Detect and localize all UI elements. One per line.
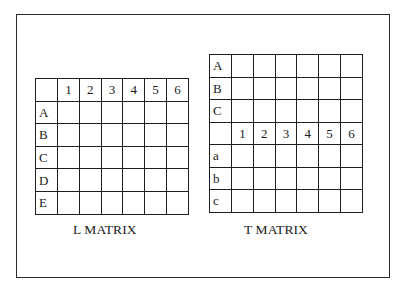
t-matrix-lower-row-label: a xyxy=(210,145,232,168)
t-matrix-cell xyxy=(232,190,254,213)
t-matrix-cell xyxy=(275,55,297,78)
l-matrix-cell xyxy=(145,169,167,192)
l-matrix-cell xyxy=(58,124,80,147)
t-matrix-col-header: 4 xyxy=(297,122,319,145)
t-matrix-col-header: 1 xyxy=(232,122,254,145)
l-matrix-cell xyxy=(166,169,188,192)
l-matrix-corner-cell xyxy=(36,79,58,102)
l-matrix-col-header: 4 xyxy=(123,79,145,102)
t-matrix-cell xyxy=(275,190,297,213)
l-matrix-cell xyxy=(166,101,188,124)
l-matrix-col-header: 3 xyxy=(101,79,123,102)
t-matrix-cell xyxy=(232,100,254,123)
l-matrix-row: D xyxy=(36,169,189,192)
t-matrix-cell xyxy=(340,167,362,190)
t-matrix-cell xyxy=(319,190,341,213)
l-matrix-cell xyxy=(101,146,123,169)
t-matrix-cell xyxy=(319,145,341,168)
l-matrix-row-label: A xyxy=(36,101,58,124)
t-matrix-cell xyxy=(232,145,254,168)
t-matrix-cell xyxy=(297,190,319,213)
t-matrix-cell xyxy=(340,77,362,100)
l-matrix-caption: L MATRIX xyxy=(73,222,137,238)
t-matrix-upper-row-label: B xyxy=(210,77,232,100)
l-matrix-cell xyxy=(58,146,80,169)
t-matrix-cell xyxy=(253,167,275,190)
t-matrix-cell xyxy=(253,145,275,168)
l-matrix-cell xyxy=(101,101,123,124)
l-matrix-row: C xyxy=(36,146,189,169)
l-matrix-cell xyxy=(123,101,145,124)
l-matrix-cell xyxy=(166,191,188,214)
t-matrix-col-header: 3 xyxy=(275,122,297,145)
l-matrix-col-header: 5 xyxy=(145,79,167,102)
l-matrix-cell xyxy=(145,124,167,147)
l-matrix-cell xyxy=(79,146,101,169)
t-matrix-lower-row: c xyxy=(210,190,363,213)
l-matrix-cell xyxy=(101,191,123,214)
t-matrix-cell xyxy=(319,55,341,78)
t-matrix-cell xyxy=(253,77,275,100)
l-matrix-cell xyxy=(145,191,167,214)
l-matrix-cell xyxy=(58,101,80,124)
l-matrix-row-label: B xyxy=(36,124,58,147)
l-matrix-row-label: D xyxy=(36,169,58,192)
l-matrix-header-row: 1 2 3 4 5 6 xyxy=(36,79,189,102)
l-matrix-cell xyxy=(123,169,145,192)
t-matrix-cell xyxy=(297,77,319,100)
t-matrix-corner-cell xyxy=(210,122,232,145)
l-matrix-row-label: E xyxy=(36,191,58,214)
l-matrix-cell xyxy=(166,124,188,147)
l-matrix-cell xyxy=(79,101,101,124)
t-matrix-grid: A B C 1 2 3 4 5 6 a b c xyxy=(209,54,363,213)
t-matrix-header-row: 1 2 3 4 5 6 xyxy=(210,122,363,145)
t-matrix-cell xyxy=(319,100,341,123)
l-matrix-cell xyxy=(101,124,123,147)
t-matrix-cell xyxy=(253,55,275,78)
t-matrix-cell xyxy=(297,55,319,78)
t-matrix-lower-row-label: b xyxy=(210,167,232,190)
l-matrix-cell xyxy=(166,146,188,169)
t-matrix-cell xyxy=(340,100,362,123)
l-matrix-col-header: 6 xyxy=(166,79,188,102)
t-matrix-cell xyxy=(253,190,275,213)
t-matrix-cell xyxy=(232,55,254,78)
l-matrix-cell xyxy=(58,169,80,192)
t-matrix-cell xyxy=(319,167,341,190)
t-matrix-cell xyxy=(340,145,362,168)
l-matrix-grid: 1 2 3 4 5 6 A B C D E xyxy=(35,78,189,215)
l-matrix-cell xyxy=(79,191,101,214)
t-matrix-cell xyxy=(232,77,254,100)
t-matrix-upper-row: C xyxy=(210,100,363,123)
t-matrix-lower-row: b xyxy=(210,167,363,190)
t-matrix-cell xyxy=(275,167,297,190)
l-matrix-cell xyxy=(145,101,167,124)
t-matrix-col-header: 6 xyxy=(340,122,362,145)
t-matrix-upper-row-label: A xyxy=(210,55,232,78)
l-matrix-col-header: 2 xyxy=(79,79,101,102)
l-matrix-cell xyxy=(101,169,123,192)
t-matrix-upper-row: A xyxy=(210,55,363,78)
t-matrix-lower-row: a xyxy=(210,145,363,168)
t-matrix-cell xyxy=(297,145,319,168)
t-matrix-cell xyxy=(275,145,297,168)
t-matrix-col-header: 2 xyxy=(253,122,275,145)
t-matrix-cell xyxy=(297,167,319,190)
t-matrix-upper-row-label: C xyxy=(210,100,232,123)
t-matrix-cell xyxy=(340,190,362,213)
t-matrix-cell xyxy=(275,77,297,100)
l-matrix-row-label: C xyxy=(36,146,58,169)
l-matrix-row: B xyxy=(36,124,189,147)
t-matrix-cell xyxy=(232,167,254,190)
l-matrix-row: E xyxy=(36,191,189,214)
l-matrix-col-header: 1 xyxy=(58,79,80,102)
t-matrix-lower-row-label: c xyxy=(210,190,232,213)
t-matrix-cell xyxy=(319,77,341,100)
l-matrix-cell xyxy=(123,191,145,214)
l-matrix-cell xyxy=(145,146,167,169)
t-matrix-cell xyxy=(253,100,275,123)
l-matrix-cell xyxy=(123,146,145,169)
l-matrix-row: A xyxy=(36,101,189,124)
l-matrix-cell xyxy=(79,169,101,192)
t-matrix-cell xyxy=(275,100,297,123)
